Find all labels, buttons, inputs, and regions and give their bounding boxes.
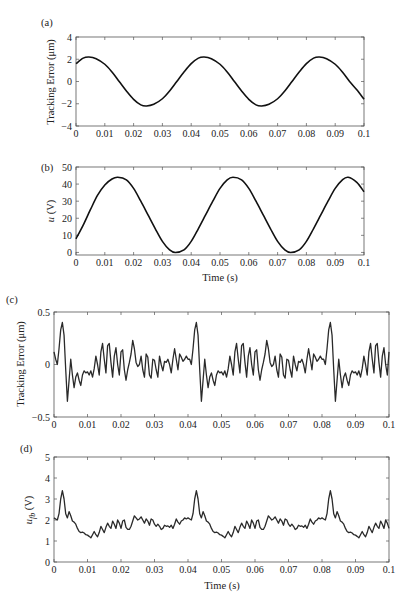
x-tick-label: 0.05 xyxy=(211,257,229,268)
x-tick-label: 0.07 xyxy=(280,419,298,430)
panel-c-ylabel: Tracking Error (μm) xyxy=(15,321,27,407)
panel-d-ylabel: ufb (V) xyxy=(23,495,37,524)
panel-a-label: (a) xyxy=(41,17,53,29)
x-tick-label: 0.07 xyxy=(280,564,298,575)
y-tick-label: 2 xyxy=(67,54,72,65)
series-line xyxy=(76,57,364,106)
x-tick-label: 0.06 xyxy=(246,419,264,430)
x-tick-label: 0.01 xyxy=(96,257,114,268)
x-tick-label: 0.07 xyxy=(269,128,287,139)
panel-d: (d) ufb (V) Time (s) 00.010.020.030.040.… xyxy=(20,443,395,592)
x-tick-label: 0 xyxy=(52,564,57,575)
panel-a: (a) Tracking Error (μm) 00.010.020.030.0… xyxy=(41,17,370,139)
x-tick-label: 0.05 xyxy=(213,419,231,430)
x-tick-label: 0 xyxy=(74,257,79,268)
y-tick-label: 30 xyxy=(62,196,72,207)
series-line xyxy=(54,491,389,538)
x-tick-label: 0.04 xyxy=(182,257,200,268)
y-tick-label: 4 xyxy=(67,32,72,43)
y-tick-label: 0 xyxy=(45,359,50,370)
x-tick-label: 0.06 xyxy=(240,128,258,139)
plot-area-frame xyxy=(54,457,389,562)
figure: (a) Tracking Error (μm) 00.010.020.030.0… xyxy=(0,0,409,615)
y-tick-label: 40 xyxy=(62,179,72,190)
y-tick-label: 50 xyxy=(62,162,72,173)
x-tick-label: 0.1 xyxy=(358,257,371,268)
panel-d-xlabel: Time (s) xyxy=(204,580,240,592)
x-tick-label: 0.09 xyxy=(347,564,365,575)
x-tick-label: 0.06 xyxy=(246,564,264,575)
y-tick-label: 0 xyxy=(45,557,50,568)
x-tick-label: 0.04 xyxy=(182,128,200,139)
x-tick-label: 0.1 xyxy=(358,128,371,139)
x-tick-label: 0.04 xyxy=(179,419,197,430)
panel-c-label: (c) xyxy=(6,294,18,306)
series-line xyxy=(54,323,389,402)
y-tick-label: −0.5 xyxy=(32,412,50,423)
x-tick-label: 0.02 xyxy=(125,257,143,268)
x-tick-label: 0.05 xyxy=(211,128,229,139)
x-tick-label: 0.03 xyxy=(146,419,164,430)
x-tick-label: 0.02 xyxy=(112,564,130,575)
x-tick-label: 0.08 xyxy=(313,419,331,430)
panel-b: (b) u (V) Time (s) 00.010.020.030.040.05… xyxy=(41,162,370,285)
x-tick-label: 0.01 xyxy=(79,564,97,575)
x-tick-label: 0.05 xyxy=(213,564,231,575)
y-tick-label: 2 xyxy=(45,515,50,526)
panel-d-label: (d) xyxy=(20,443,33,455)
x-tick-label: 0.08 xyxy=(298,257,316,268)
x-tick-label: 0.06 xyxy=(240,257,258,268)
x-tick-label: 0.09 xyxy=(347,419,365,430)
x-tick-label: 0.01 xyxy=(79,419,97,430)
x-tick-label: 0.01 xyxy=(96,128,114,139)
y-tick-label: 10 xyxy=(62,230,72,241)
x-tick-label: 0.1 xyxy=(383,419,396,430)
x-tick-label: 0.08 xyxy=(313,564,331,575)
x-tick-label: 0.09 xyxy=(326,128,344,139)
y-tick-label: 0 xyxy=(67,247,72,258)
x-tick-label: 0.08 xyxy=(298,128,316,139)
x-tick-label: 0.03 xyxy=(154,128,172,139)
x-tick-label: 0 xyxy=(52,419,57,430)
plot-area-frame xyxy=(76,167,364,255)
panel-b-ylabel: u (V) xyxy=(45,199,57,222)
series-line xyxy=(76,177,364,252)
y-tick-label: 5 xyxy=(45,452,50,463)
panel-b-xlabel: Time (s) xyxy=(202,272,238,284)
y-tick-label: 4 xyxy=(45,473,50,484)
y-tick-label: 3 xyxy=(45,494,50,505)
y-tick-label: 20 xyxy=(62,213,72,224)
panel-b-label: (b) xyxy=(41,162,54,174)
x-tick-label: 0.07 xyxy=(269,257,287,268)
panel-a-ylabel: Tracking Error (μm) xyxy=(45,39,57,125)
x-tick-label: 0.03 xyxy=(154,257,172,268)
x-tick-label: 0.03 xyxy=(146,564,164,575)
y-tick-label: −4 xyxy=(61,121,72,132)
panel-c: (c) Tracking Error (μm) 00.010.020.030.0… xyxy=(6,294,395,430)
y-tick-label: 0.5 xyxy=(38,307,51,318)
x-tick-label: 0.09 xyxy=(326,257,344,268)
y-tick-label: −2 xyxy=(61,98,72,109)
x-tick-label: 0.02 xyxy=(125,128,143,139)
x-tick-label: 0.04 xyxy=(179,564,197,575)
x-tick-label: 0.1 xyxy=(383,564,396,575)
x-tick-label: 0.02 xyxy=(112,419,130,430)
y-tick-label: 0 xyxy=(67,76,72,87)
x-tick-label: 0 xyxy=(74,128,79,139)
y-tick-label: 1 xyxy=(45,536,50,547)
